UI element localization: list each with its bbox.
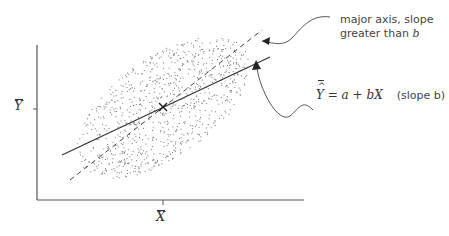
centroid-marker: [159, 103, 167, 111]
major-axis-arrowhead: [262, 37, 270, 45]
major-axis-text-1: major axis, slope: [340, 13, 449, 27]
major-axis-text-2: greater than b: [340, 27, 449, 41]
x-mean-label: X: [156, 209, 165, 224]
regression-arrow: [257, 68, 313, 117]
major-axis-annotation: major axis, slope greater than b: [340, 13, 449, 41]
regression-equation: = a + bX: [324, 88, 383, 102]
slope-note: (slope b): [397, 89, 445, 102]
major-axis-arrow: [262, 17, 330, 44]
regression-annotation: Y = a + bX(slope b): [316, 88, 445, 102]
y-mean-label: Y: [14, 98, 23, 113]
scatter-points: [77, 38, 248, 179]
regression-line: [62, 57, 270, 155]
y-hat: Y: [316, 88, 324, 102]
